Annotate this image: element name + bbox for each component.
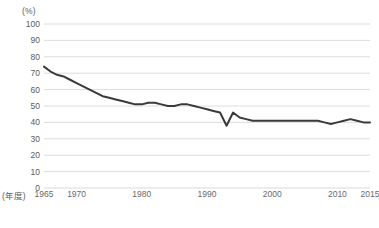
series-line	[44, 67, 370, 126]
data-line-group	[44, 67, 370, 126]
x-axis-tick-label: 2000	[263, 190, 282, 199]
gridlines	[44, 24, 370, 188]
x-axis-tick-label: 1970	[67, 190, 86, 199]
x-axis-title: (年度)	[2, 189, 26, 201]
x-axis-tick-label: 2015	[361, 190, 379, 199]
x-axis-tick-label: 2010	[328, 190, 347, 199]
x-axis-tick-label: 1980	[132, 190, 151, 199]
x-axis-tick-label: 1990	[198, 190, 217, 199]
x-axis-tick-label: 1965	[35, 190, 54, 199]
